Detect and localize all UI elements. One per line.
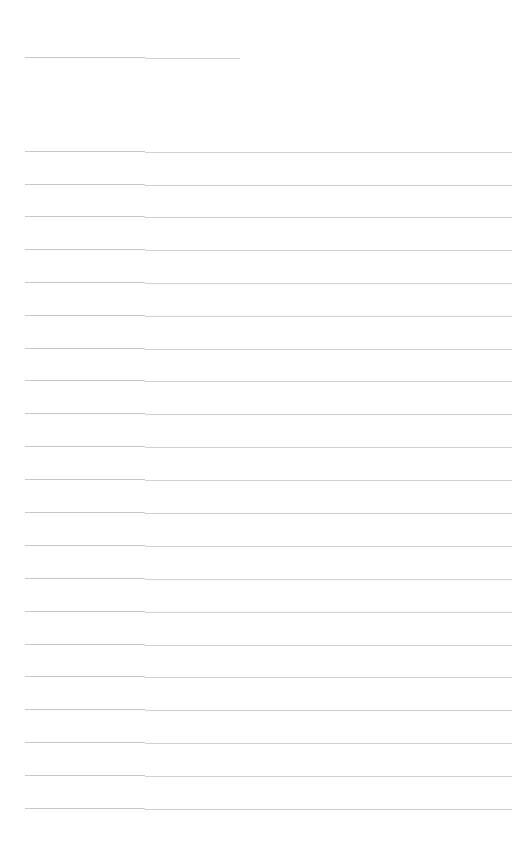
ruled-line-right-segment — [145, 480, 512, 481]
ruled-line-right-segment — [145, 381, 512, 382]
ruled-line-left-segment — [25, 512, 145, 513]
header-rule-line — [25, 57, 240, 58]
ruled-line — [25, 249, 512, 250]
ruled-line-left-segment — [25, 578, 145, 579]
ruled-line — [25, 742, 512, 743]
ruled-line — [25, 808, 512, 809]
ruled-line — [25, 348, 512, 349]
ruled-line-left-segment — [25, 676, 145, 677]
ruled-line-right-segment — [145, 513, 512, 514]
ruled-line-right-segment — [145, 283, 512, 284]
ruled-line — [25, 380, 512, 381]
ruled-line — [25, 676, 512, 677]
ruled-line-left-segment — [25, 348, 145, 349]
ruled-line-right-segment — [145, 809, 512, 810]
ruled-line — [25, 151, 512, 152]
ruled-line-right-segment — [145, 579, 512, 580]
ruled-line-right-segment — [145, 185, 512, 186]
ruled-line — [25, 282, 512, 283]
header-rule-left-segment — [25, 57, 145, 58]
ruled-line-right-segment — [145, 612, 512, 613]
ruled-line — [25, 578, 512, 579]
ruled-line-right-segment — [145, 546, 512, 547]
ruled-line-left-segment — [25, 446, 145, 447]
ruled-line — [25, 611, 512, 612]
ruled-line-left-segment — [25, 709, 145, 710]
ruled-line-right-segment — [145, 743, 512, 744]
ruled-line-left-segment — [25, 282, 145, 283]
ruled-line — [25, 545, 512, 546]
ruled-line-right-segment — [145, 349, 512, 350]
ruled-line-right-segment — [145, 414, 512, 415]
ruled-line-right-segment — [145, 677, 512, 678]
ruled-line-left-segment — [25, 315, 145, 316]
ruled-line-left-segment — [25, 742, 145, 743]
ruled-line-left-segment — [25, 611, 145, 612]
lined-page — [0, 0, 529, 860]
ruled-line-right-segment — [145, 316, 512, 317]
header-rule-right-segment — [145, 58, 240, 59]
ruled-line-left-segment — [25, 380, 145, 381]
ruled-line — [25, 184, 512, 185]
ruled-line-left-segment — [25, 545, 145, 546]
ruled-line — [25, 512, 512, 513]
ruled-line-left-segment — [25, 644, 145, 645]
ruled-line — [25, 315, 512, 316]
ruled-line-left-segment — [25, 151, 145, 152]
ruled-line-right-segment — [145, 152, 512, 153]
ruled-line-left-segment — [25, 184, 145, 185]
ruled-line — [25, 775, 512, 776]
ruled-line — [25, 709, 512, 710]
ruled-line-right-segment — [145, 250, 512, 251]
ruled-line-left-segment — [25, 479, 145, 480]
ruled-line-right-segment — [145, 710, 512, 711]
ruled-line — [25, 446, 512, 447]
ruled-line-right-segment — [145, 645, 512, 646]
ruled-line-right-segment — [145, 447, 512, 448]
ruled-line-right-segment — [145, 217, 512, 218]
ruled-line — [25, 479, 512, 480]
ruled-line-left-segment — [25, 413, 145, 414]
ruled-line-left-segment — [25, 775, 145, 776]
ruled-line — [25, 644, 512, 645]
ruled-line-left-segment — [25, 808, 145, 809]
ruled-line-left-segment — [25, 249, 145, 250]
ruled-line — [25, 413, 512, 414]
ruled-line-left-segment — [25, 216, 145, 217]
ruled-line — [25, 216, 512, 217]
ruled-line-right-segment — [145, 776, 512, 777]
